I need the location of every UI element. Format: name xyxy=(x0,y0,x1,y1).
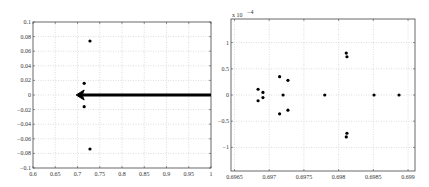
data-point xyxy=(286,109,289,112)
x-tick-label: 0.75 xyxy=(95,171,106,177)
chart-figure: 0.60.650.70.750.80.850.90.9510.10.080.06… xyxy=(0,0,429,187)
y-tick-label: 0.04 xyxy=(21,63,32,69)
x-tick-label: 0.698 xyxy=(332,174,346,180)
y-tick-label: 0.08 xyxy=(21,34,32,40)
data-point xyxy=(261,96,264,99)
data-point xyxy=(345,135,348,138)
x-tick-label: 0.9 xyxy=(163,171,171,177)
data-point xyxy=(88,147,91,150)
y-scale-exponent: −4 xyxy=(247,9,253,15)
y-tick-label: 0 xyxy=(226,92,229,98)
data-point xyxy=(261,91,264,94)
data-point xyxy=(323,93,326,96)
data-point xyxy=(256,99,259,102)
x-tick-label: 0.8 xyxy=(118,171,126,177)
data-point xyxy=(83,105,86,108)
y-scale-label: x 10 xyxy=(232,12,243,18)
y-tick-label: −0.08 xyxy=(17,150,31,156)
y-tick-label: 0.06 xyxy=(21,48,32,54)
x-tick-label: 0.697 xyxy=(262,174,276,180)
y-tick-label: −1 xyxy=(223,144,229,150)
y-tick-label: −0.1 xyxy=(20,165,31,171)
y-tick-label: −0.5 xyxy=(218,118,229,124)
data-point xyxy=(88,39,91,42)
x-tick-label: 0.6975 xyxy=(296,174,313,180)
plot-right: 0.69650.6970.69750.6980.69850.69910.50−0… xyxy=(218,9,415,180)
data-point xyxy=(397,93,400,96)
data-point xyxy=(83,82,86,85)
data-point xyxy=(345,51,348,54)
y-tick-label: 0 xyxy=(28,92,31,98)
x-tick-label: 0.95 xyxy=(184,171,195,177)
plot-left: 0.60.650.70.750.80.850.90.9510.10.080.06… xyxy=(17,19,212,177)
data-point xyxy=(345,55,348,58)
data-point xyxy=(372,93,375,96)
x-tick-label: 1 xyxy=(210,171,213,177)
data-point xyxy=(278,75,281,78)
x-tick-label: 0.85 xyxy=(139,171,150,177)
y-tick-label: 0.02 xyxy=(21,77,32,83)
y-tick-label: 0.5 xyxy=(222,66,230,72)
x-tick-label: 0.65 xyxy=(50,171,61,177)
data-point xyxy=(345,132,348,135)
x-tick-label: 0.6985 xyxy=(365,174,382,180)
y-tick-label: −0.04 xyxy=(17,121,31,127)
data-point xyxy=(278,112,281,115)
x-tick-label: 0.7 xyxy=(74,171,82,177)
data-point xyxy=(286,79,289,82)
data-point xyxy=(281,93,284,96)
y-tick-label: −0.06 xyxy=(17,136,31,142)
data-point xyxy=(256,88,259,91)
x-tick-label: 0.699 xyxy=(401,174,415,180)
x-tick-label: 0.6965 xyxy=(226,174,243,180)
x-tick-label: 0.6 xyxy=(29,171,37,177)
y-tick-label: 0.1 xyxy=(24,19,32,25)
y-tick-label: −0.02 xyxy=(17,107,31,113)
y-tick-label: 1 xyxy=(226,40,229,46)
